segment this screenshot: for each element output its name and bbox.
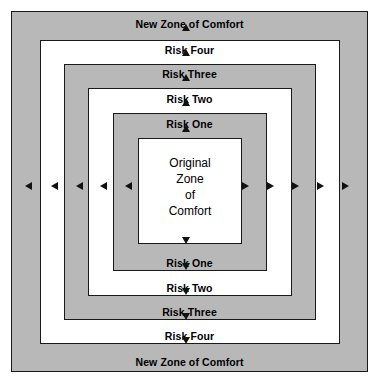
- center-line-4: Comfort: [138, 203, 242, 219]
- original-zone-of-comfort-label: OriginalZoneofComfort: [138, 155, 242, 219]
- center-line-2: Zone: [138, 171, 242, 187]
- center-line-3: of: [138, 187, 242, 203]
- center-line-1: Original: [138, 155, 242, 171]
- comfort-zone-diagram: New Zone of ComfortRisk FourRisk ThreeRi…: [0, 0, 379, 388]
